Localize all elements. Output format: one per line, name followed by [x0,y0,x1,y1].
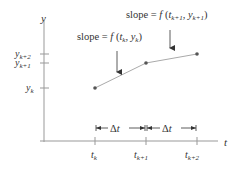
point-k [93,86,97,90]
point-k2 [195,52,199,56]
interval-2-label: Δt [162,123,173,134]
t-axis-label: t [224,136,228,148]
slope-label-k1: slope = f (tk+1, yk+1) [126,9,208,22]
y-axis-label: y [40,12,46,24]
solution-polyline [95,54,197,88]
diagram-canvas: y t yk+2 yk+1 yk tk tk+1 tk+2 slope = f … [0,0,242,171]
interval-1-label: Δt [110,123,121,134]
t-tick-label-k2: tk+2 [185,149,200,162]
slope-label-k: slope = f (tk, yk) [77,31,142,44]
interval-1 [96,125,145,131]
t-tick-label-k1: tk+1 [134,149,148,162]
t-tick-label-k: tk [91,149,98,162]
y-tick-label-k: yk [25,82,34,95]
point-k1 [144,61,148,65]
